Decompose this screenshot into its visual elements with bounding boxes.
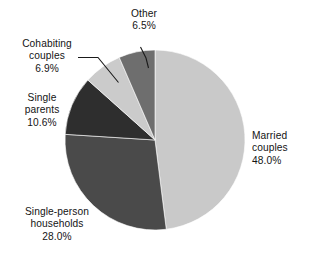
slice-label-single-parents-value: 10.6%	[4, 117, 80, 129]
slice-label-cohabiting-line1: Cohabiting	[8, 38, 86, 50]
slice-label-married-line1: Married	[252, 130, 318, 142]
slice-label-single-person-value: 28.0%	[2, 231, 112, 243]
slice-label-married-couples: Married couples 48.0%	[252, 130, 318, 167]
slice-label-other-text: Other	[108, 8, 180, 20]
slice-label-married-value: 48.0%	[252, 155, 318, 167]
slice-label-other-value: 6.5%	[108, 20, 180, 32]
slice-label-cohabiting-couples: Cohabiting couples 6.9%	[8, 38, 86, 75]
slice-label-single-person-line1: Single-person	[2, 206, 112, 218]
pie-slice-group	[65, 50, 245, 230]
slice-label-other: Other 6.5%	[108, 8, 180, 33]
pie-slice-married-couples[interactable]	[155, 50, 245, 229]
slice-label-married-line2: couples	[252, 142, 318, 154]
slice-label-single-parents-line1: Single	[4, 92, 80, 104]
slice-label-single-person-households: Single-person households 28.0%	[2, 206, 112, 243]
slice-label-cohabiting-line2: couples	[8, 50, 86, 62]
slice-label-single-parents-line2: parents	[4, 104, 80, 116]
slice-label-single-parents: Single parents 10.6%	[4, 92, 80, 129]
slice-label-single-person-line2: households	[2, 218, 112, 230]
pie-chart: Other 6.5% Cohabiting couples 6.9% Singl…	[0, 0, 323, 270]
slice-label-cohabiting-value: 6.9%	[8, 63, 86, 75]
